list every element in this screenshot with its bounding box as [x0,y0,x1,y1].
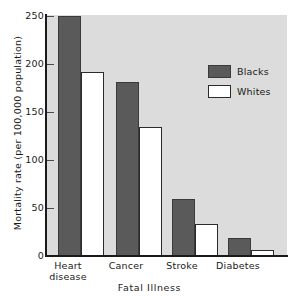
y-tick-label-150: 150 [4,107,44,117]
legend-swatch-whites-icon [208,85,231,98]
y-tick-label-250: 250 [4,11,44,21]
x-axis-title: Fatal Illness [0,283,299,293]
bar-stroke-blacks [172,199,195,256]
y-axis-line [45,14,47,257]
bar-heart-disease-whites [81,72,104,256]
y-tick-label-50: 50 [4,203,44,213]
x-label-cancer: Cancer [96,260,156,271]
y-tick-label-200: 200 [4,59,44,69]
bar-chart-figure: 250 200 150 100 50 0 [0,0,299,296]
y-tickmark-150 [47,112,54,113]
y-tickmark-250 [47,16,54,17]
legend-label-whites: Whites [237,87,271,97]
legend-label-blacks: Blacks [237,67,269,77]
bar-cancer-whites [139,127,162,256]
plot-area: Blacks Whites [46,15,287,256]
x-label-diabetes: Diabetes [208,260,268,271]
x-axis-line [45,255,288,257]
x-label-heart-disease: Heart disease [38,260,98,282]
y-axis-title: Mortality rate (per 100,000 population) [13,33,23,233]
legend-swatch-blacks-icon [208,65,231,78]
y-tickmark-50 [47,208,54,209]
y-tickmark-200 [47,64,54,65]
bar-heart-disease-blacks [58,16,81,256]
bar-stroke-whites [195,224,218,256]
y-tick-label-100: 100 [4,155,44,165]
legend-item-whites: Whites [208,83,271,100]
legend: Blacks Whites [208,63,271,103]
x-label-stroke: Stroke [152,260,212,271]
legend-item-blacks: Blacks [208,63,271,80]
y-tickmark-100 [47,160,54,161]
bar-diabetes-blacks [228,238,251,256]
bar-cancer-blacks [116,82,139,256]
